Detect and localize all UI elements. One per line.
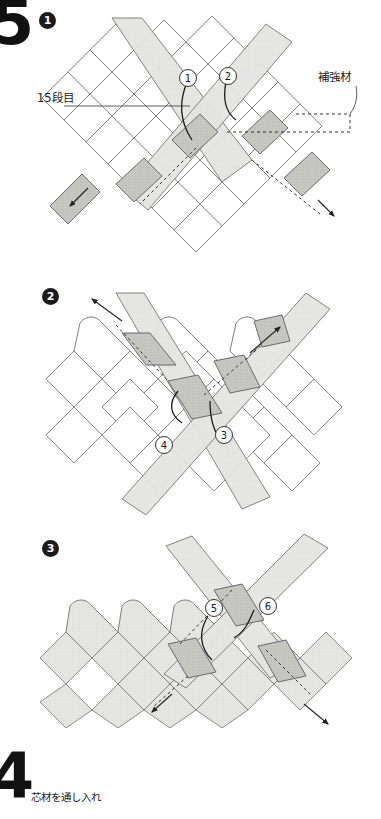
weave-diagram-step-3: 5 6 bbox=[18, 528, 379, 728]
weave-marker-1: 1 bbox=[185, 73, 191, 84]
page-canvas: 5 4 1 bbox=[0, 0, 381, 819]
weave-diagram-step-1: 1 2 bbox=[20, 10, 381, 275]
weave-marker-2: 2 bbox=[225, 71, 231, 82]
row-label-15dan: 15段目 bbox=[37, 89, 74, 105]
weave-diagram-step-2: 4 3 bbox=[18, 285, 379, 515]
weave-svg-3: 5 6 bbox=[18, 528, 379, 728]
section-caption: 芯材を通し入れ bbox=[31, 789, 101, 804]
weave-marker-5: 5 bbox=[211, 603, 217, 614]
weave-marker-3: 3 bbox=[221, 430, 227, 441]
weave-marker-6: 6 bbox=[265, 601, 271, 612]
weave-marker-4: 4 bbox=[161, 440, 167, 451]
weave-svg-1: 1 2 bbox=[20, 10, 381, 275]
weave-svg-2: 4 3 bbox=[18, 285, 379, 515]
chapter-number-bottom: 4 bbox=[0, 745, 32, 807]
reinforcement-material-label: 補強材 bbox=[318, 68, 351, 84]
